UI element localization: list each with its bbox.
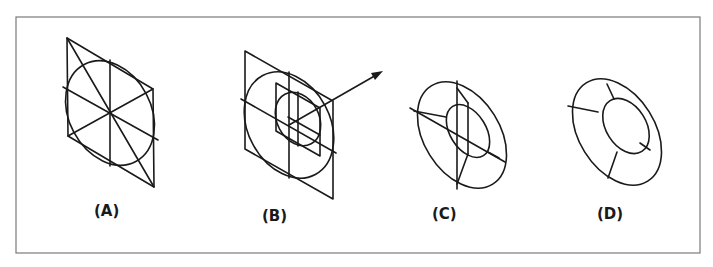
panel-b: (B) xyxy=(227,51,383,225)
arrowhead-icon xyxy=(371,71,383,80)
panel-c: (C) xyxy=(399,66,525,223)
panel-d-outer-ellipse xyxy=(554,63,680,202)
diagram-figure: (A) (B) (C) (D) xyxy=(0,0,713,267)
panel-c-tangent-2 xyxy=(457,88,468,103)
panel-d-label: (D) xyxy=(597,205,623,223)
panel-a: (A) xyxy=(48,38,172,220)
panel-d: (D) xyxy=(554,63,680,223)
panel-c-tangent-3 xyxy=(457,154,468,184)
panel-c-tangent-1 xyxy=(414,111,446,117)
panel-c-label: (C) xyxy=(432,205,457,223)
panel-d-segment-4 xyxy=(608,152,617,178)
panel-c-outer-ellipse xyxy=(399,66,525,205)
panel-b-label: (B) xyxy=(262,207,287,225)
panel-b-inner-horizontal xyxy=(288,117,320,135)
panel-d-inner-ellipse xyxy=(593,90,659,162)
panel-d-segment-2 xyxy=(607,84,614,99)
panel-c-tangent-4 xyxy=(488,152,499,158)
panel-a-label: (A) xyxy=(94,202,119,220)
